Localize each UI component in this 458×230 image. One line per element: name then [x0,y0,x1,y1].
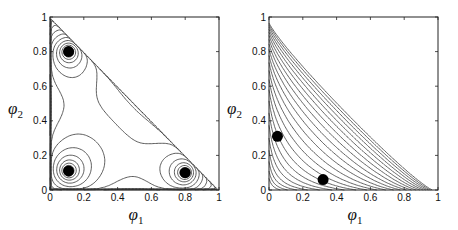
x-tick-label: 0 [266,192,272,203]
y-tick-label: 0 [41,185,47,196]
y-tick-label: 0.6 [33,81,47,92]
x-tick-label: 0.4 [330,192,344,203]
x-tick-label: 0.6 [363,192,377,203]
y-axis-label: φ2 [227,99,242,120]
x-axis-label: φ1 [129,205,144,226]
y-tick-label: 0.4 [252,115,266,126]
x-tick-label: 0 [47,192,53,203]
y-tick-label: 1 [260,12,266,23]
y-tick-label: 0.4 [33,115,47,126]
minimum-marker [63,165,74,176]
y-tick-label: 0 [260,185,266,196]
y-tick-label: 0.2 [33,150,47,161]
x-tick-label: 0.8 [178,192,192,203]
minimum-marker [180,167,191,178]
x-tick-label: 0.8 [397,192,411,203]
outside-simplex-1 [269,17,438,190]
x-tick-label: 1 [216,192,222,203]
minimum-marker [318,174,329,185]
y-axis-label: φ2 [8,99,23,120]
x-axis-label: φ1 [348,205,363,226]
y-tick-label: 1 [41,12,47,23]
y-tick-label: 0.6 [252,81,266,92]
x-tick-label: 0.2 [77,192,91,203]
y-tick-label: 0.8 [33,46,47,57]
y-tick-label: 0.8 [252,46,266,57]
figure: 00.20.40.60.8100.20.40.60.81φ1φ200.20.40… [0,0,458,230]
x-tick-label: 0.4 [111,192,125,203]
minimum-marker [272,131,283,142]
x-tick-label: 0.6 [144,192,158,203]
x-tick-label: 0.2 [296,192,310,203]
y-tick-label: 0.2 [252,150,266,161]
minimum-marker [63,46,74,57]
x-tick-label: 1 [435,192,441,203]
